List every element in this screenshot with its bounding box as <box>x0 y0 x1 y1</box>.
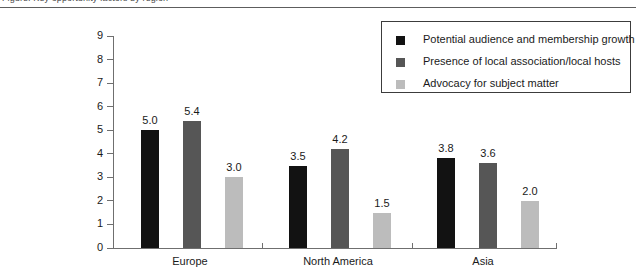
category-label-europe: Europe <box>120 255 260 267</box>
bar-europe-series-2 <box>183 121 201 248</box>
bar-asia-series-3 <box>521 201 539 248</box>
bar-value-label: 5.4 <box>175 105 209 117</box>
legend-item-label: Advocacy for subject matter <box>423 77 559 89</box>
bar-value-label: 4.2 <box>323 133 357 145</box>
bar-europe-series-3 <box>225 177 243 248</box>
y-axis-tick <box>107 36 113 37</box>
bar-value-label: 3.8 <box>429 142 463 154</box>
chart-legend: Potential audience and membership growth… <box>381 21 631 93</box>
category-label-north-america: North America <box>268 255 408 267</box>
legend-item-1[interactable]: Potential audience and membership growth <box>382 31 632 53</box>
bar-value-label: 2.0 <box>513 185 547 197</box>
bar-north-america-series-3 <box>373 213 391 248</box>
y-axis-tick-label: 7 <box>81 76 103 88</box>
x-axis-group-separator <box>262 243 263 249</box>
y-axis-tick-label: 2 <box>81 194 103 206</box>
bar-value-label: 1.5 <box>365 197 399 209</box>
x-axis-group-separator <box>412 243 413 249</box>
bar-asia-series-1 <box>437 158 455 248</box>
legend-swatch-lightgray-icon <box>396 80 405 89</box>
legend-item-label: Presence of local association/local host… <box>423 55 621 67</box>
y-axis-tick-label: 6 <box>81 100 103 112</box>
y-axis-tick-label: 3 <box>81 170 103 182</box>
y-axis-tick-label: 5 <box>81 123 103 135</box>
x-axis-line <box>113 248 557 249</box>
y-axis-tick <box>107 248 113 249</box>
legend-swatch-darkgray-icon <box>396 58 405 67</box>
y-axis-tick-label: 0 <box>81 241 103 253</box>
y-axis-line <box>113 36 114 249</box>
bar-europe-series-1 <box>141 130 159 248</box>
bar-value-label: 3.0 <box>217 161 251 173</box>
y-axis-tick <box>107 200 113 201</box>
bar-value-label: 3.5 <box>281 150 315 162</box>
bar-asia-series-2 <box>479 163 497 248</box>
bar-north-america-series-2 <box>331 149 349 248</box>
y-axis-tick <box>107 224 113 225</box>
legend-item-3[interactable]: Advocacy for subject matter <box>382 75 632 97</box>
bar-north-america-series-1 <box>289 166 307 248</box>
y-axis-tick <box>107 130 113 131</box>
y-axis-tick-label: 4 <box>81 147 103 159</box>
y-axis-tick-label: 9 <box>81 29 103 41</box>
bar-value-label: 5.0 <box>133 114 167 126</box>
y-axis-tick <box>107 83 113 84</box>
y-axis-tick <box>107 153 113 154</box>
y-axis-tick-label: 1 <box>81 217 103 229</box>
category-label-asia: Asia <box>413 255 553 267</box>
bar-value-label: 3.6 <box>471 147 505 159</box>
legend-item-label: Potential audience and membership growth <box>423 33 635 45</box>
legend-swatch-black-icon <box>396 36 405 45</box>
legend-item-2[interactable]: Presence of local association/local host… <box>382 53 632 75</box>
y-axis-tick-label: 8 <box>81 53 103 65</box>
y-axis-tick <box>107 59 113 60</box>
y-axis-tick <box>107 177 113 178</box>
x-axis-end-tick <box>556 243 557 249</box>
y-axis-tick <box>107 106 113 107</box>
